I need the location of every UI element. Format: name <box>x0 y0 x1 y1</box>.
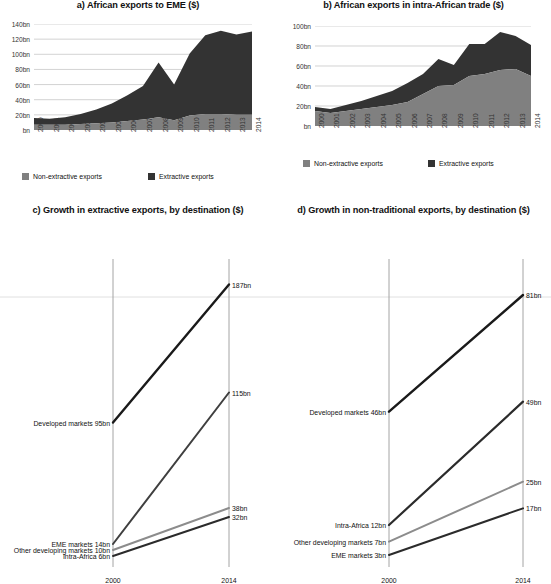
panel-b-x-tick: 2008 <box>441 113 448 128</box>
panel-a-legend-non-extractive: Non-extractive exports <box>22 173 102 180</box>
panel-b-x-tick: 2001 <box>333 113 340 128</box>
panel-d-series-start-label: Other developing markets 7bn <box>294 538 386 545</box>
panel-a-x-tick: 2006 <box>130 117 137 132</box>
panel-a-y-tick: 140bn <box>0 21 30 28</box>
panel-d-series-start-label: Developed markets 46bn <box>309 408 386 415</box>
legend-swatch-extractive-icon <box>428 160 435 167</box>
legend-swatch-non-extractive-icon <box>303 160 310 167</box>
panel-d-growth-non-traditional-exports: d) Growth in non-traditional exports, by… <box>276 205 551 582</box>
panel-c-x-end-year: 2014 <box>221 577 236 584</box>
panel-b-x-tick: 2000 <box>318 113 325 128</box>
panel-a-x-tick: 2007 <box>146 117 153 132</box>
panel-b-x-tick: 2007 <box>426 113 433 128</box>
panel-c-x-start-year: 2000 <box>105 577 120 584</box>
panel-d-series-end-label: 81bn <box>526 292 541 299</box>
panel-b-legend-non-extractive: Non-extractive exports <box>303 160 383 167</box>
panel-a-x-tick: 2005 <box>115 117 122 132</box>
panel-a-x-tick: 2009 <box>177 117 184 132</box>
panel-d-title: d) Growth in non-traditional exports, by… <box>276 205 551 215</box>
panel-d-series-end-label: 25bn <box>526 478 541 485</box>
panel-a-y-tick: 120bn <box>0 36 30 43</box>
panel-c-series-start-label: Developed markets 95bn <box>33 419 110 426</box>
panel-a-x-tick: 2004 <box>99 117 106 132</box>
panel-b-x-axis: 2000200120022003200420052006200720082009… <box>315 128 531 160</box>
panel-d-labels: Developed markets 46bn81bnIntra-Africa 1… <box>276 227 551 567</box>
panel-b-y-tick: 40bn <box>281 83 311 90</box>
panel-a-x-axis: 2000200120022003200420052006200720082009… <box>34 132 252 164</box>
panel-b-y-tick: 20bn <box>281 103 311 110</box>
panel-b-y-tick: 100bn <box>281 23 311 30</box>
panel-d-series-end-label: 17bn <box>526 505 541 512</box>
legend-swatch-non-extractive-icon <box>22 173 29 180</box>
panel-d-series-end-label: 49bn <box>526 398 541 405</box>
legend-label-extractive: Extractive exports <box>439 160 494 167</box>
panel-a-plot <box>34 24 252 130</box>
panel-b-plot <box>315 26 531 126</box>
panel-b-x-tick: 2013 <box>519 113 526 128</box>
panel-a-y-tick: 20bn <box>0 111 30 118</box>
panel-a-y-tick: 40bn <box>0 96 30 103</box>
panel-a-legend-extractive: Extractive exports <box>148 173 214 180</box>
panel-d-series-start-label: Intra-Africa 12bn <box>335 522 386 529</box>
panel-a-x-tick: 2011 <box>208 118 215 132</box>
panel-b-x-tick: 2012 <box>503 113 510 128</box>
panel-a-x-tick: 2008 <box>162 117 169 132</box>
legend-label-non-extractive: Non-extractive exports <box>33 173 102 180</box>
panel-d-x-start-year: 2000 <box>381 577 396 584</box>
panel-b-x-tick: 2005 <box>395 113 402 128</box>
panel-b-y-tick: 60bn <box>281 63 311 70</box>
panel-a-african-exports-to-eme: a) African exports to EME ($) 140bn120bn… <box>0 0 276 200</box>
panel-c-title: c) Growth in extractive exports, by dest… <box>0 205 276 215</box>
panel-b-x-tick: 2004 <box>380 113 387 128</box>
panel-b-x-tick: 2011 <box>488 114 495 128</box>
panel-a-x-tick: 2003 <box>84 117 91 132</box>
panel-b-x-tick: 2006 <box>411 113 418 128</box>
panel-c-series-end-label: 38bn <box>232 505 247 512</box>
panel-b-african-exports-intra-african-trade: b) African exports in intra-African trad… <box>276 0 551 200</box>
panel-c-series-end-label: 115bn <box>232 389 251 396</box>
panel-a-x-tick: 2014 <box>255 117 262 132</box>
panel-b-title: b) African exports in intra-African trad… <box>276 0 551 10</box>
panel-c-series-start-label: Intra-Africa 6bn <box>63 553 110 560</box>
panel-b-x-tick: 2003 <box>364 113 371 128</box>
panel-a-x-tick: 2000 <box>37 117 44 132</box>
panel-a-y-tick: bn <box>0 127 30 134</box>
panel-a-x-tick: 2002 <box>68 117 75 132</box>
legend-swatch-extractive-icon <box>148 173 155 180</box>
panel-a-area-svg <box>34 24 252 130</box>
panel-b-x-tick: 2009 <box>457 113 464 128</box>
panel-a-x-tick: 2010 <box>193 117 200 132</box>
panel-a-title: a) African exports to EME ($) <box>0 0 276 10</box>
panel-a-y-tick: 100bn <box>0 51 30 58</box>
legend-label-non-extractive: Non-extractive exports <box>314 160 383 167</box>
panel-a-x-tick: 2013 <box>239 117 246 132</box>
panel-b-y-tick: 80bn <box>281 43 311 50</box>
panel-c-labels: Developed markets 95bn187bnEME markets 1… <box>0 227 276 567</box>
panel-c-growth-extractive-exports: c) Growth in extractive exports, by dest… <box>0 205 276 582</box>
panel-b-x-tick: 2014 <box>534 113 541 128</box>
panel-b-x-tick: 2010 <box>472 113 479 128</box>
panel-d-x-end-year: 2014 <box>515 577 530 584</box>
panel-c-series-end-label: 32bn <box>232 514 247 521</box>
panel-a-y-tick: 60bn <box>0 81 30 88</box>
panel-a-x-tick: 2012 <box>224 117 231 132</box>
panel-b-x-tick: 2002 <box>349 113 356 128</box>
panel-a-x-tick: 2001 <box>53 117 60 132</box>
panel-a-y-tick: 80bn <box>0 66 30 73</box>
panel-d-series-start-label: EME markets 3bn <box>331 552 386 559</box>
panel-c-series-end-label: 187bn <box>232 281 251 288</box>
legend-label-extractive: Extractive exports <box>159 173 214 180</box>
panel-b-area-svg <box>315 26 531 126</box>
panel-b-y-tick: bn <box>281 123 311 130</box>
panel-b-legend-extractive: Extractive exports <box>428 160 494 167</box>
